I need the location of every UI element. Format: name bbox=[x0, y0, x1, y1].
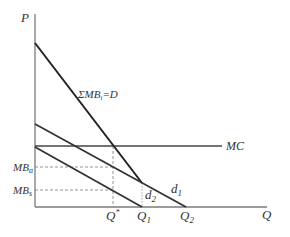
p-axis-label: P bbox=[20, 10, 29, 25]
public-good-demand-diagram: P Q MC ΣMBi=D d1 d2 MBa MBs Q* Q1 Q2 bbox=[0, 0, 290, 237]
mc-label: MC bbox=[225, 139, 245, 153]
mbs-label: MBs bbox=[12, 184, 32, 198]
q-axis-label: Q bbox=[262, 207, 272, 222]
q2-label: Q2 bbox=[180, 208, 194, 225]
aggregate-demand-label: ΣMBi=D bbox=[77, 88, 118, 102]
d1-label: d1 bbox=[171, 181, 182, 198]
d2-line bbox=[35, 147, 142, 207]
q1-label: Q1 bbox=[137, 208, 151, 225]
qstar-label: Q* bbox=[106, 208, 119, 223]
mba-label: MBa bbox=[12, 161, 33, 175]
d1-line bbox=[35, 124, 186, 207]
aggregate-demand-line bbox=[35, 43, 142, 183]
